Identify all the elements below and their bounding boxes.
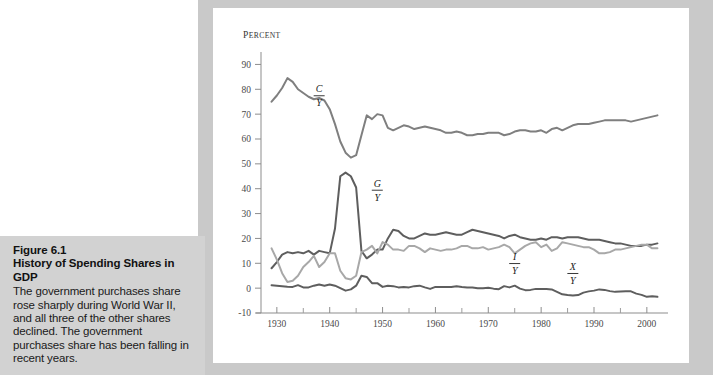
figure-caption-text: The government purchases share rose shar… <box>13 285 193 365</box>
x-tick-label: 1980 <box>532 319 551 329</box>
figure-number: Figure 6.1 <box>13 244 193 257</box>
x-tick-label: 1990 <box>585 319 604 329</box>
y-tick-label: 10 <box>242 259 252 269</box>
series-line-x-over-y <box>272 276 658 297</box>
x-tick-label: 2000 <box>637 319 656 329</box>
series-label-numerator-g-over-y: G <box>374 178 381 189</box>
figure-title: History of Spending Shares in GDP <box>13 257 193 284</box>
blank-white-panel <box>0 0 198 236</box>
series-label-numerator-x-over-y: X <box>569 261 577 272</box>
x-tick-label: 1940 <box>320 319 339 329</box>
series-line-i-over-y <box>272 242 658 282</box>
figure-panel: PERCENT -100102030405060708090 193019401… <box>213 8 689 363</box>
x-tick-label: 1950 <box>373 319 392 329</box>
series-label-denominator-i-over-y: Y <box>512 265 519 276</box>
y-tick-label: 80 <box>242 85 252 95</box>
y-axis-title: PERCENT <box>243 30 281 40</box>
y-tick-label: 0 <box>246 284 251 294</box>
y-tick-label: 20 <box>242 234 252 244</box>
x-axis-ticks: 19301940195019601970198019902000 <box>267 307 656 329</box>
spending-shares-line-chart: PERCENT -100102030405060708090 193019401… <box>213 8 689 363</box>
series-label-denominator-g-over-y: Y <box>375 192 382 203</box>
x-tick-label: 1960 <box>426 319 445 329</box>
y-tick-label: 40 <box>242 184 252 194</box>
y-axis-ticks: -100102030405060708090 <box>238 60 261 319</box>
figure-caption-block: Figure 6.1 History of Spending Shares in… <box>0 236 205 375</box>
y-tick-label: 60 <box>242 134 252 144</box>
series-label-numerator-i-over-y: I <box>512 251 517 262</box>
series-label-numerator-c-over-y: C <box>316 83 323 94</box>
series-lines <box>272 78 658 297</box>
y-tick-label: 30 <box>242 209 252 219</box>
series-labels: CYGYIYXY <box>314 83 579 286</box>
x-tick-label: 1930 <box>267 319 286 329</box>
series-line-c-over-y <box>272 78 658 158</box>
y-tick-label: 50 <box>242 159 252 169</box>
y-tick-label: 70 <box>242 110 252 120</box>
y-tick-label: 90 <box>242 60 252 70</box>
x-tick-label: 1970 <box>479 319 498 329</box>
series-label-denominator-x-over-y: Y <box>570 275 577 286</box>
caption-column: Figure 6.1 History of Spending Shares in… <box>0 0 205 375</box>
y-tick-label: -10 <box>238 308 251 318</box>
